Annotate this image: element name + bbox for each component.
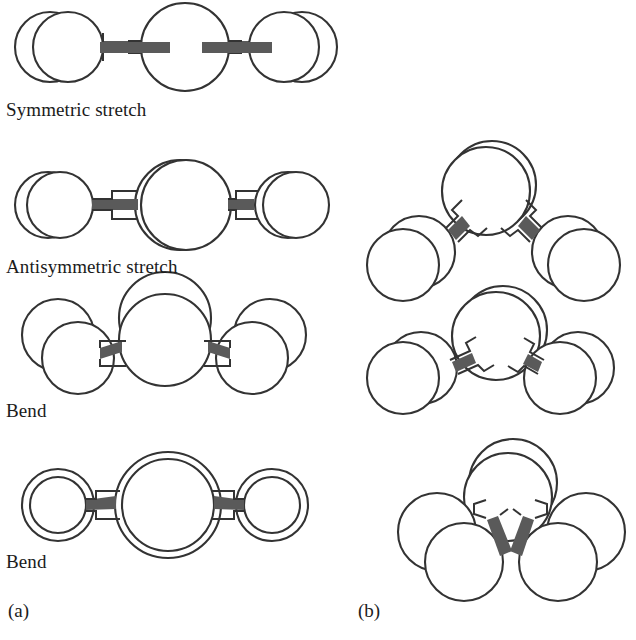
atom-a3-center-pos2 — [119, 294, 211, 386]
atom-left-pos2 — [33, 12, 103, 82]
atom-a4-left-inner — [30, 477, 86, 533]
mode-antisymmetric-stretch-diagram — [15, 160, 329, 250]
atom-b1-left-pos2 — [367, 229, 439, 301]
atom-b3-right-pos2 — [519, 523, 597, 601]
mode-symmetric-stretch-diagram — [15, 3, 337, 91]
atom-b2-right-pos2 — [524, 342, 596, 414]
vibration-modes-figure: .atom{fill:#ffffff;fill-opacity:1;stroke… — [0, 0, 636, 640]
atom-b3-left-pos2 — [425, 523, 503, 601]
atom-a2-right-pos2 — [263, 172, 329, 238]
label-antisymmetric-stretch: Antisymmetric stretch — [6, 256, 177, 278]
atom-a3-right-pos2 — [216, 322, 288, 394]
atom-a3-left-pos2 — [42, 322, 114, 394]
panel-label-b: (b) — [358, 600, 380, 622]
atom-b2-left-pos2 — [367, 342, 439, 414]
atom-b1-apex-pos2 — [442, 147, 530, 235]
label-bend-out-of-plane: Bend — [6, 551, 47, 573]
atom-b1-right-pos2 — [548, 229, 620, 301]
label-bend-in-plane: Bend — [6, 400, 47, 422]
atom-a4-center-inner — [122, 459, 214, 551]
label-symmetric-stretch: Symmetric stretch — [6, 99, 146, 121]
atom-a2-center-pos2 — [141, 160, 231, 250]
panel-label-a: (a) — [8, 600, 29, 622]
atom-a4-right-inner — [244, 477, 300, 533]
atom-a2-left-pos2 — [27, 172, 93, 238]
